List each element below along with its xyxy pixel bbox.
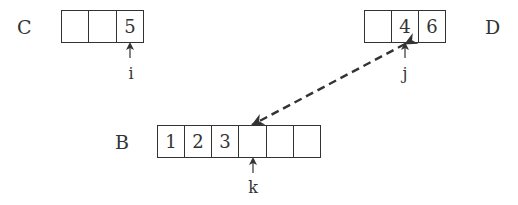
dashed-connector-arrow-icon (252, 44, 405, 125)
pointer-k-label: k (248, 180, 258, 196)
pointer-j-label: j (403, 66, 408, 82)
arrows-overlay (0, 0, 518, 205)
pointer-i-label: i (128, 66, 133, 82)
